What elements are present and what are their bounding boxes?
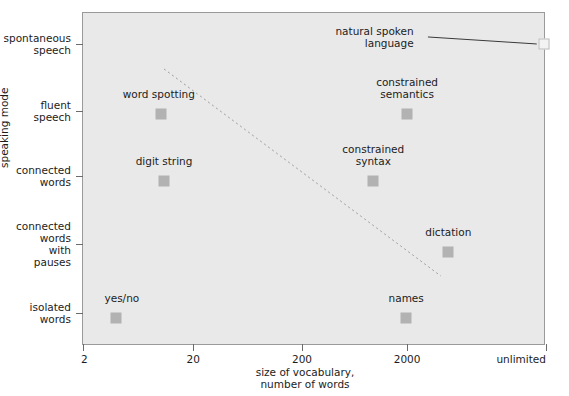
- y-axis-tick-label: isolated words: [0, 301, 71, 325]
- data-point-marker[interactable]: [110, 313, 121, 324]
- y-axis-tick-label: spontaneous speech: [0, 32, 71, 56]
- data-point-label: digit string: [136, 155, 193, 167]
- data-point-marker[interactable]: [368, 176, 379, 187]
- plot-area: spontaneous speechfluent speechconnected…: [82, 12, 545, 345]
- data-point-marker[interactable]: [402, 108, 413, 119]
- y-axis-tick-mark: [76, 111, 83, 112]
- x-axis-tick-label: 20: [187, 353, 200, 365]
- data-point-marker[interactable]: [159, 176, 170, 187]
- data-point-label: dictation: [425, 226, 471, 238]
- y-axis-tick-label: connected words: [0, 164, 71, 188]
- y-axis-tick-mark: [76, 244, 83, 245]
- overlay-lines: [83, 13, 546, 346]
- data-point-label: names: [389, 292, 424, 304]
- data-point-marker[interactable]: [155, 108, 166, 119]
- y-axis-tick-mark: [76, 44, 83, 45]
- x-axis-tick-label: 2000: [394, 353, 421, 365]
- x-axis-tick-mark: [546, 344, 547, 351]
- data-point-label: yes/no: [104, 292, 139, 304]
- scatter-chart-figure: spontaneous speechfluent speechconnected…: [0, 0, 569, 396]
- y-axis-tick-label: connected words with pauses: [0, 220, 71, 268]
- x-axis-title: size of vocabulary, number of words: [245, 366, 365, 390]
- x-axis-tick-mark: [193, 344, 194, 351]
- data-point-marker[interactable]: [538, 38, 549, 49]
- y-axis-tick-mark: [76, 176, 83, 177]
- leader-line: [428, 37, 537, 44]
- data-point-label: word spotting: [123, 88, 195, 100]
- x-axis-tick-label: 200: [292, 353, 312, 365]
- x-axis-tick-label: unlimited: [496, 353, 546, 365]
- x-axis-tick-label: 2: [81, 353, 88, 365]
- x-axis-tick-mark: [302, 344, 303, 351]
- x-axis-tick-mark: [407, 344, 408, 351]
- x-axis-tick-mark: [83, 344, 84, 351]
- y-axis-tick-label: fluent speech: [0, 99, 71, 123]
- data-point-label: constrained semantics: [376, 76, 438, 100]
- data-point-label: constrained syntax: [342, 143, 404, 167]
- y-axis-tick-mark: [76, 313, 83, 314]
- data-point-marker[interactable]: [401, 313, 412, 324]
- y-axis-title: speaking mode: [0, 48, 10, 168]
- trend-line: [164, 69, 441, 276]
- data-point-label: natural spoken language: [335, 25, 413, 49]
- data-point-marker[interactable]: [443, 247, 454, 258]
